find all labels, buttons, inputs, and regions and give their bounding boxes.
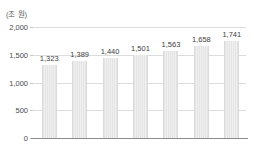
bar-value-label: 1,658 [192, 35, 211, 44]
y-axis-tick-mark [30, 110, 33, 111]
bar-value-label: 1,440 [101, 47, 120, 56]
bar-value-label: 1,741 [222, 30, 241, 39]
y-axis-tick-label: 1,000 [9, 78, 28, 87]
bar: 1,501 [133, 55, 148, 138]
y-axis-tick-label: 2,000 [9, 23, 28, 32]
plot-area: 05001,0001,5002,0001,32320141,38920151,4… [33, 27, 246, 138]
y-axis-tick-mark [30, 27, 33, 28]
chart-title [0, 0, 254, 4]
y-axis-unit-label: (조 원) [6, 8, 27, 19]
bar-value-label: 1,323 [40, 54, 59, 63]
y-axis-tick-label: 0 [24, 134, 28, 143]
bar: 1,658 [194, 46, 209, 138]
bar: 1,741 [224, 41, 239, 138]
y-axis-tick-mark [30, 55, 33, 56]
y-axis-tick-label: 1,500 [9, 50, 28, 59]
gridline [33, 27, 246, 28]
x-axis-line [31, 138, 248, 139]
bar-value-label: 1,563 [162, 40, 181, 49]
bar: 1,389 [72, 61, 87, 138]
bar: 1,563 [163, 51, 178, 138]
bar-value-label: 1,501 [131, 44, 150, 53]
bar: 1,440 [103, 58, 118, 138]
bar-value-label: 1,389 [70, 50, 89, 59]
bar: 1,323 [42, 65, 57, 138]
y-axis-tick-mark [30, 83, 33, 84]
y-axis-tick-label: 500 [15, 106, 28, 115]
